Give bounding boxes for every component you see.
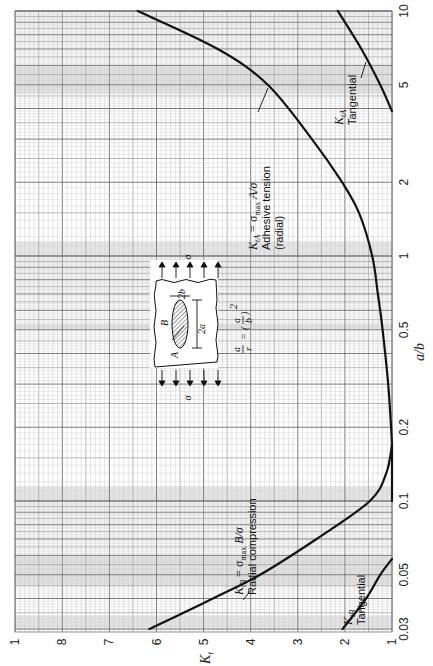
svg-text:B: B — [159, 320, 170, 326]
x-tick-label: 0.2 — [397, 419, 411, 436]
svg-text:b: b — [243, 318, 254, 323]
x-tick-label: 0.05 — [397, 563, 411, 587]
svg-text:): ) — [239, 311, 251, 316]
svg-text:2b: 2b — [176, 289, 187, 299]
svg-text:Adhesive tension: Adhesive tension — [260, 166, 272, 250]
x-tick-label: 0.03 — [397, 617, 411, 641]
x-tick-label: 0.5 — [397, 321, 411, 338]
svg-text:(radial): (radial) — [273, 216, 285, 250]
stress-concentration-chart: 0.030.050.10.20.512510123456781 Kt a/b K… — [0, 0, 433, 666]
svg-text:Tangential: Tangential — [346, 75, 358, 125]
y-tick-label: 5 — [197, 638, 211, 645]
y-tick-label: 1 — [385, 638, 399, 645]
x-axis-label: a/b — [412, 343, 427, 361]
inset-diagram: σ σ 2b 2a A B a r = ( a b ) 2 — [150, 253, 254, 400]
svg-text:Radial compression: Radial compression — [246, 498, 258, 595]
y-tick-label: 2 — [338, 638, 352, 645]
svg-text:=: = — [238, 333, 249, 340]
x-tick-label: 2 — [397, 179, 411, 186]
svg-text:a: a — [231, 318, 242, 323]
svg-text:A: A — [169, 351, 180, 359]
svg-text:a: a — [231, 347, 242, 352]
svg-text:2a: 2a — [196, 324, 207, 334]
svg-text:2: 2 — [228, 304, 239, 309]
y-tick-label: 4 — [244, 638, 258, 645]
y-axis-label: Kt — [198, 652, 215, 665]
svg-text:r: r — [243, 347, 254, 351]
elliptical-hole — [172, 300, 188, 348]
y-tick-label: 8 — [55, 638, 69, 645]
x-tick-label: 5 — [397, 81, 411, 88]
x-tick-label: 1 — [397, 252, 411, 259]
y-tick-label: 7 — [102, 638, 116, 645]
y-tick-label: 1 — [8, 638, 22, 645]
x-tick-label: 0.1 — [397, 492, 411, 509]
y-tick-label: 3 — [291, 638, 305, 645]
svg-text:Tangential: Tangential — [355, 575, 367, 625]
y-tick-label: 6 — [150, 638, 164, 645]
x-tick-label: 10 — [397, 4, 411, 18]
